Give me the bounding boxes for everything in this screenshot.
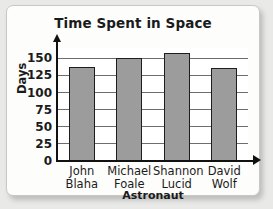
chart-title: Time Spent in Space [7,15,259,31]
y-axis-arrow-icon [53,34,61,42]
y-tick-label: 100 [27,86,52,100]
x-tick-label: ShannonLucid [153,165,201,190]
bar [164,53,190,161]
y-tick-label: 150 [27,51,52,65]
y-tick-label: 0 [44,154,52,168]
x-tick-label-line1: David [201,165,249,178]
x-axis-spine [56,160,254,162]
x-tick-label: DavidWolf [201,165,249,190]
gridline-150 [58,58,248,59]
y-tick-label: 50 [35,120,52,134]
x-tick-label: MichaelFoale [106,165,154,190]
plot-area: 0255075100125150 JohnBlahaMichaelFoaleSh… [58,48,248,161]
bar [211,68,237,161]
y-tick-label: 75 [35,103,52,117]
y-axis-spine [56,40,58,161]
y-tick-label: 125 [27,68,52,82]
chart-screenshot: Time Spent in Space Days 025507510012515… [0,0,273,209]
x-tick-label-line1: Michael [106,165,154,178]
y-tick-label: 25 [35,137,52,151]
chart-card: Time Spent in Space Days 025507510012515… [6,5,260,196]
x-axis-title: Astronaut [58,189,248,202]
x-axis-arrow-icon [253,155,261,165]
x-tick-label-line1: John [58,165,106,178]
x-tick-label-line1: Shannon [153,165,201,178]
bar [116,58,142,161]
bar [69,67,95,162]
x-tick-label: JohnBlaha [58,165,106,190]
